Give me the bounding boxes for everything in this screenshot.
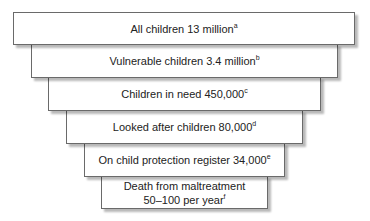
level-label: Looked after children 80,000d: [113, 120, 256, 134]
level-label: All children 13 milliona: [130, 22, 237, 36]
level-label: Children in need 450,000c: [121, 87, 247, 101]
level-vulnerable-children: Vulnerable children 3.4 millionb: [31, 44, 338, 78]
level-label-line2: 50–100 per yearf: [143, 193, 225, 207]
level-label: On child protection register 34,000e: [98, 153, 270, 167]
level-children-in-need: Children in need 450,000c: [48, 77, 321, 111]
level-all-children: All children 13 milliona: [13, 12, 355, 45]
level-looked-after-children: Looked after children 80,000d: [66, 110, 303, 144]
level-death-from-maltreatment: Death from maltreatment 50–100 per yearf: [101, 176, 268, 209]
level-child-protection-register: On child protection register 34,000e: [84, 143, 285, 177]
level-label-line1: Death from maltreatment: [124, 179, 246, 193]
level-label: Vulnerable children 3.4 millionb: [109, 54, 259, 68]
